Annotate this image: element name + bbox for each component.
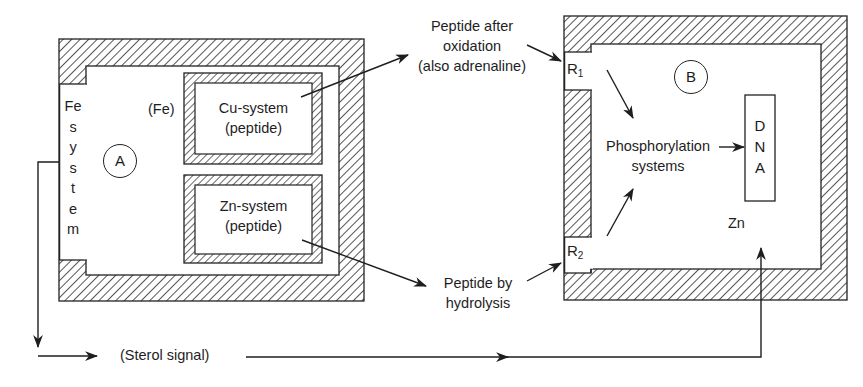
phosphorylation-line-1: Phosphorylation bbox=[597, 136, 719, 156]
sterol-signal-label: (Sterol signal) bbox=[120, 345, 209, 365]
cu-system-title: Cu-system bbox=[195, 98, 312, 118]
fe-system-letter: Fe bbox=[60, 96, 86, 117]
phosphorylation-line-2: systems bbox=[597, 156, 719, 176]
zn-system-label: Zn-system (peptide) bbox=[195, 196, 312, 236]
dna-letter: D bbox=[745, 115, 775, 136]
fe-system-letter: m bbox=[60, 219, 86, 240]
phosphorylation-label: Phosphorylation systems bbox=[597, 136, 719, 176]
compartment-a-marker: A bbox=[103, 144, 137, 178]
oxidation-line-2: oxidation bbox=[408, 36, 536, 56]
cu-system-subtitle: (peptide) bbox=[195, 118, 312, 138]
arrow-hydrolysis-to-r2 bbox=[527, 263, 561, 281]
receptor-1-sub: 1 bbox=[578, 68, 584, 79]
fe-system-letter: e bbox=[60, 199, 86, 220]
cu-system-label: Cu-system (peptide) bbox=[195, 98, 312, 138]
fe-system-label: Fe s y s t e m bbox=[60, 96, 86, 240]
zn-system-subtitle: (peptide) bbox=[195, 216, 312, 236]
receptor-1-base: R bbox=[567, 60, 578, 77]
fe-system-letter: t bbox=[60, 178, 86, 199]
receptor-1-label: R1 bbox=[567, 60, 583, 79]
fe-note: (Fe) bbox=[148, 99, 175, 119]
zn-system-title: Zn-system bbox=[195, 196, 312, 216]
hydrolysis-line-2: hydrolysis bbox=[430, 293, 526, 313]
oxidation-line-3: (also adrenaline) bbox=[408, 56, 536, 76]
fe-system-letter: s bbox=[60, 117, 86, 138]
oxidation-label: Peptide after oxidation (also adrenaline… bbox=[408, 16, 536, 76]
receptor-2-sub: 2 bbox=[578, 250, 584, 261]
compartment-b-marker: B bbox=[674, 60, 708, 94]
receptor-2-label: R2 bbox=[567, 242, 583, 261]
sterol-path-left bbox=[38, 162, 59, 347]
hydrolysis-line-1: Peptide by bbox=[430, 273, 526, 293]
receptor-2-base: R bbox=[567, 242, 578, 259]
fe-system-letter: s bbox=[60, 158, 86, 179]
dna-letter: A bbox=[745, 157, 775, 178]
hydrolysis-label: Peptide by hydrolysis bbox=[430, 273, 526, 313]
zn-label: Zn bbox=[728, 213, 745, 233]
oxidation-line-1: Peptide after bbox=[408, 16, 536, 36]
dna-letter: N bbox=[745, 136, 775, 157]
dna-label: D N A bbox=[745, 115, 775, 178]
fe-system-letter: y bbox=[60, 137, 86, 158]
